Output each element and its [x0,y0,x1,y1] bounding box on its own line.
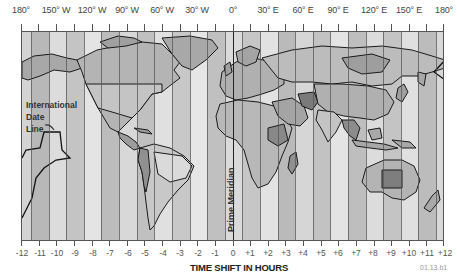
longitude-label: 180° [435,5,453,15]
hour-label: -1 [211,248,219,258]
hour-label: +12 [438,248,452,258]
hour-label: -4 [159,248,167,258]
zone-line [418,32,419,240]
hour-label: 0 [231,248,236,258]
central-australia [382,170,402,188]
tick [426,240,427,246]
axis-title: TIME SHIFT IN HOURS [190,262,288,273]
hour-label: +10 [402,248,416,258]
zone-line [313,32,314,240]
zone-line [66,32,67,240]
zone-line [137,32,138,240]
zone-line [330,32,331,240]
tick [250,240,251,246]
hour-label: -11 [34,248,46,258]
tick [391,240,392,246]
tick [197,240,198,246]
hour-label: +4 [298,248,308,258]
hour-label: +5 [316,248,326,258]
tick [321,240,322,246]
kamchatka [418,72,426,86]
longitude-label: 60° E [292,5,313,15]
longitude-label: 30° E [257,5,278,15]
longitude-label: 0° [229,5,237,15]
longitude-label: 150° W [42,5,70,15]
zone-line [242,32,243,240]
prime-meridian-label: Prime Meridian [226,167,236,232]
longitude-label: 60° W [150,5,174,15]
zone-line [295,32,296,240]
longitude-label: 150° E [396,5,422,15]
longitude-label: 30° W [185,5,209,15]
zone-line [49,32,50,240]
tick [144,240,145,246]
tick [443,240,444,246]
longitude-label: 120° E [361,5,387,15]
hour-label: -9 [71,248,79,258]
tick [285,240,286,246]
hour-label: +7 [351,248,361,258]
tick [215,240,216,246]
zone-line [207,32,208,240]
hour-label: +2 [263,248,273,258]
hour-label: -5 [141,248,149,258]
hour-label: -7 [106,248,114,258]
zone-line [260,32,261,240]
figure-code: 01.13.b1 [420,264,447,271]
borneo [368,128,382,140]
tick [303,240,304,246]
hour-label: -10 [51,248,63,258]
tick [74,240,75,246]
tick [374,240,375,246]
hour-label: +6 [333,248,343,258]
hour-label: +11 [420,248,434,258]
tick [92,240,93,246]
zone-line [84,32,85,240]
southeast-asia [342,120,360,140]
zone-line [31,32,32,240]
tick [268,240,269,246]
longitude-label: 90° W [115,5,139,15]
tick [56,240,57,246]
zone-line [366,32,367,240]
tick [409,240,410,246]
date-line-label-line1: International [26,99,77,111]
hour-label: +1 [245,248,255,258]
tick [180,240,181,246]
hour-label: +3 [281,248,291,258]
indonesia [352,140,398,150]
hour-label: -2 [194,248,202,258]
longitude-label: 120° W [78,5,106,15]
hour-label: -8 [89,248,97,258]
hour-label: -12 [16,248,28,258]
tick [162,240,163,246]
tick [39,240,40,246]
zone-line [154,32,155,240]
zone-line [278,32,279,240]
hour-label: -6 [124,248,132,258]
zone-line [172,32,173,240]
madagascar [288,152,298,174]
tick [109,240,110,246]
zone-line [119,32,120,240]
zone-line [190,32,191,240]
tick [21,240,22,246]
japan [396,84,408,102]
zone-line [348,32,349,240]
usa [86,84,162,118]
tick [356,240,357,246]
new-zealand [424,190,440,212]
hour-label: -3 [176,248,184,258]
zone-line [101,32,102,240]
zone-line [401,32,402,240]
hour-label: +9 [386,248,396,258]
tick [233,240,234,246]
longitude-label: 90° E [327,5,348,15]
zone-line [383,32,384,240]
tick [127,240,128,246]
date-line-pointer-arrow-icon [44,122,56,132]
zone-line [436,32,437,240]
tick [338,240,339,246]
hour-label: +8 [368,248,378,258]
longitude-label: 180° [12,5,30,15]
